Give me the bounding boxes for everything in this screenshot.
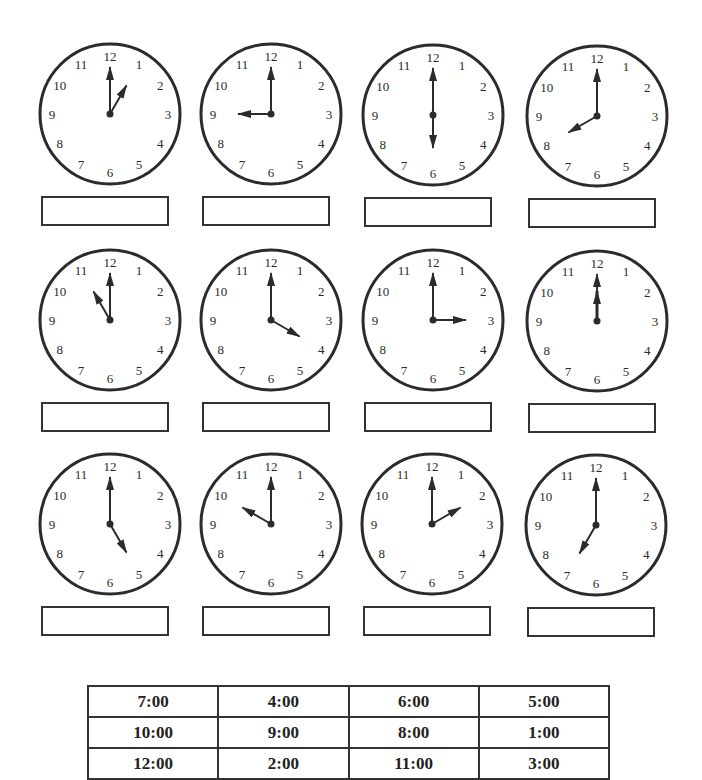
dial-number: 11 <box>236 263 249 278</box>
dial-number: 3 <box>488 108 495 123</box>
dial-number: 12 <box>591 51 604 66</box>
dial-number: 10 <box>376 79 389 94</box>
answer-box[interactable] <box>202 402 330 432</box>
dial-number: 3 <box>165 107 172 122</box>
dial-number: 4 <box>644 343 651 358</box>
dial-number: 8 <box>57 342 64 357</box>
hour-hand <box>271 320 300 337</box>
dial-number: 9 <box>371 517 378 532</box>
answer-bank-row: 10:00 9:00 8:00 1:00 <box>88 717 609 748</box>
answer-box[interactable] <box>41 606 169 636</box>
dial-number: 7 <box>239 157 246 172</box>
dial-number: 8 <box>380 342 387 357</box>
clock-icon: 121234567891011 <box>522 246 672 396</box>
clock-face: 121234567891011 <box>522 41 672 191</box>
dial-number: 5 <box>623 159 630 174</box>
clock-icon: 121234567891011 <box>35 39 185 189</box>
dial-number: 11 <box>398 263 411 278</box>
clock-face: 121234567891011 <box>35 245 185 395</box>
dial-number: 7 <box>239 363 246 378</box>
answer-box[interactable] <box>364 402 492 432</box>
clock-face: 121234567891011 <box>358 40 508 190</box>
dial-number: 10 <box>540 80 553 95</box>
dial-number: 6 <box>268 165 275 180</box>
dial-number: 2 <box>480 79 487 94</box>
clock-icon: 121234567891011 <box>35 449 185 599</box>
dial-number: 1 <box>459 263 466 278</box>
dial-number: 2 <box>644 285 651 300</box>
dial-number: 6 <box>429 575 436 590</box>
dial-number: 9 <box>536 109 543 124</box>
answer-box[interactable] <box>202 196 330 226</box>
answer-box[interactable] <box>528 403 656 433</box>
dial-number: 4 <box>318 136 325 151</box>
dial-number: 5 <box>458 567 465 582</box>
dial-number: 1 <box>623 264 630 279</box>
dial-number: 12 <box>427 50 440 65</box>
dial-number: 1 <box>458 467 465 482</box>
answer-bank-cell: 9:00 <box>218 717 348 748</box>
clock-face: 121234567891011 <box>522 246 672 396</box>
dial-number: 8 <box>380 137 387 152</box>
dial-number: 12 <box>104 459 117 474</box>
answer-box[interactable] <box>363 606 491 636</box>
dial-number: 3 <box>488 313 495 328</box>
dial-number: 5 <box>136 567 143 582</box>
dial-number: 7 <box>565 159 572 174</box>
answer-box[interactable] <box>364 197 492 227</box>
dial-number: 11 <box>236 467 249 482</box>
dial-number: 4 <box>157 136 164 151</box>
answer-bank-row: 7:00 4:00 6:00 5:00 <box>88 686 609 717</box>
dial-number: 12 <box>590 460 603 475</box>
dial-number: 2 <box>318 488 325 503</box>
answer-bank-cell: 6:00 <box>349 686 479 717</box>
dial-number: 7 <box>239 567 246 582</box>
dial-number: 4 <box>157 342 164 357</box>
dial-number: 8 <box>543 547 550 562</box>
clock-icon: 121234567891011 <box>196 245 346 395</box>
dial-number: 2 <box>157 488 164 503</box>
answer-box[interactable] <box>527 607 655 637</box>
answer-box[interactable] <box>528 198 656 228</box>
dial-number: 7 <box>400 567 407 582</box>
dial-number: 10 <box>375 488 388 503</box>
hour-hand <box>580 525 597 554</box>
dial-number: 12 <box>104 49 117 64</box>
hour-hand <box>432 508 461 525</box>
dial-number: 1 <box>297 263 304 278</box>
dial-number: 1 <box>136 57 143 72</box>
answer-bank-cell: 10:00 <box>88 717 218 748</box>
clock-icon: 121234567891011 <box>522 41 672 191</box>
answer-bank-row: 12:00 2:00 11:00 3:00 <box>88 748 609 779</box>
dial-number: 11 <box>562 264 575 279</box>
dial-number: 6 <box>268 371 275 386</box>
answer-box[interactable] <box>41 196 169 226</box>
answer-box[interactable] <box>41 402 169 432</box>
dial-number: 6 <box>107 371 114 386</box>
dial-number: 3 <box>165 313 172 328</box>
dial-number: 3 <box>487 517 494 532</box>
answer-bank-cell: 7:00 <box>88 686 218 717</box>
dial-number: 5 <box>459 158 466 173</box>
dial-number: 9 <box>49 517 56 532</box>
dial-number: 6 <box>430 371 437 386</box>
dial-number: 9 <box>210 107 217 122</box>
dial-number: 11 <box>236 57 249 72</box>
dial-number: 11 <box>75 467 88 482</box>
clock-icon: 121234567891011 <box>358 40 508 190</box>
dial-number: 3 <box>326 107 333 122</box>
clock-icon: 121234567891011 <box>357 449 507 599</box>
dial-number: 4 <box>157 546 164 561</box>
dial-number: 3 <box>652 314 659 329</box>
dial-number: 3 <box>652 109 659 124</box>
dial-number: 7 <box>401 363 408 378</box>
dial-number: 2 <box>318 78 325 93</box>
answer-box[interactable] <box>202 606 330 636</box>
dial-number: 8 <box>218 136 225 151</box>
dial-number: 10 <box>214 488 227 503</box>
dial-number: 5 <box>623 364 630 379</box>
hour-hand <box>110 85 127 114</box>
dial-number: 3 <box>651 518 658 533</box>
clock-face: 121234567891011 <box>196 245 346 395</box>
dial-number: 2 <box>157 284 164 299</box>
